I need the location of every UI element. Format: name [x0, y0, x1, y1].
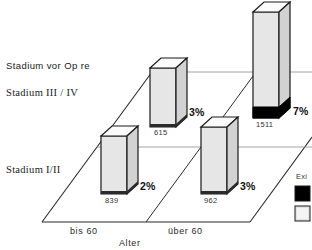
data-label-percent-stadium3-4-ueber60: 7% — [293, 105, 309, 117]
row-label-stadium-vor-op: Stadium vor Op re — [6, 60, 90, 71]
axis-title-alter: Alter — [119, 238, 141, 248]
data-label-percent-stadium3-4-bis60: 3% — [189, 106, 205, 118]
category-label-ueber-60: über 60 — [168, 226, 203, 236]
legend-swatches — [295, 186, 310, 221]
data-label-percent-stadium1-2-bis60: 2% — [140, 180, 156, 192]
bar-stadium1-2-bis60 — [101, 126, 138, 194]
legend-swatch-exitus — [295, 186, 310, 201]
data-label-n-stadium1-2-bis60: 839 — [105, 196, 118, 205]
bar-stadium3-4-ueber60 — [253, 2, 290, 118]
category-label-bis-60: bis 60 — [70, 226, 98, 236]
bar-stadium3-4-bis60 — [150, 58, 187, 127]
data-label-n-stadium3-4-bis60: 615 — [154, 128, 167, 137]
data-label-percent-stadium1-2-ueber60: 3% — [240, 180, 256, 192]
data-label-n-stadium3-4-ueber60: 1511 — [256, 120, 273, 129]
row-label-stadium-3-4: Stadium III / IV — [6, 87, 78, 98]
row-label-stadium-1-2: Stadium I/II — [6, 164, 61, 175]
bar-stadium1-2-ueber60 — [201, 117, 238, 194]
chart-3d-bar: Stadium vor Op re Stadium III / IV Stadi… — [0, 0, 312, 250]
data-label-n-stadium1-2-ueber60: 962 — [204, 196, 217, 205]
legend-title: Exi — [296, 172, 307, 181]
